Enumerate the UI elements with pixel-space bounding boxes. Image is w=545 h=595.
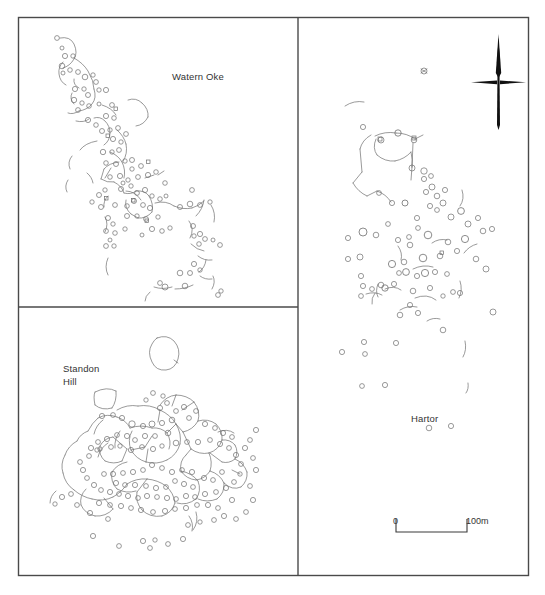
north-arrow: [471, 34, 526, 130]
figure-container: .frame { fill:none; stroke:#4a4a4a; stro…: [0, 0, 545, 595]
scale-bar-end-label: 100m: [466, 516, 489, 526]
scale-bar-start-label: 0: [393, 516, 398, 526]
site-plan-drawing: .frame { fill:none; stroke:#4a4a4a; stro…: [0, 0, 545, 595]
panel-label-watern-oke: Watern Oke: [172, 71, 224, 84]
panel-hartor-content: [339, 68, 496, 431]
scale-bar: [396, 519, 467, 532]
panel-label-hartor: Hartor: [411, 413, 438, 426]
panel-label-standon-hill: Standon Hill: [63, 363, 99, 389]
figure-frame: [19, 18, 529, 576]
